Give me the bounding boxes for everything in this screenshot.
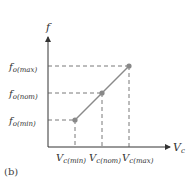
x-axis-label: Vc [173,141,185,155]
vco-transfer-diagram: f fo(max) fo(nom) fo(min) Vc(min) Vc(nom… [0,0,192,184]
figure-caption: (b) [4,166,18,177]
y-axis-label: f [45,21,52,34]
x-tick-max: Vc(max) [122,152,154,165]
x-tick-nom: Vc(nom) [89,152,121,165]
y-tick-nom: fo(nom) [8,88,38,101]
point-min [72,117,77,122]
point-max [126,63,131,68]
x-tick-min: Vc(min) [56,152,86,165]
point-nom [99,90,104,95]
y-tick-min: fo(min) [8,115,36,128]
y-tick-max: fo(max) [8,61,37,74]
